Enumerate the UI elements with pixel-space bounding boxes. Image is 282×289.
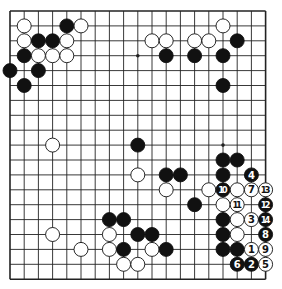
black-stone (216, 153, 230, 167)
white-stone (145, 34, 159, 48)
black-stone (3, 64, 17, 78)
white-stone: 5 (259, 257, 273, 271)
white-stone: 13 (259, 183, 273, 197)
black-stone (216, 79, 230, 93)
black-stone (173, 168, 187, 182)
go-board-diagram: 4107131112314819625 (0, 0, 282, 289)
move-number-label: 8 (262, 229, 269, 240)
white-stone (230, 183, 244, 197)
move-number-label: 10 (218, 185, 228, 195)
white-stone (230, 228, 244, 242)
white-stone (17, 34, 31, 48)
white-stone (216, 19, 230, 33)
move-number-label: 11 (232, 200, 242, 210)
move-number-label: 13 (261, 185, 271, 195)
white-stone (102, 228, 116, 242)
black-stone: 10 (216, 183, 230, 197)
black-stone (117, 242, 131, 256)
move-number-label: 7 (248, 184, 255, 195)
black-stone (188, 49, 202, 63)
white-stone: 3 (244, 213, 258, 227)
black-stone (230, 242, 244, 256)
black-stone (102, 213, 116, 227)
black-stone (17, 79, 31, 93)
black-stone (216, 168, 230, 182)
black-stone (117, 213, 131, 227)
black-stone (159, 49, 173, 63)
white-stone (117, 257, 131, 271)
black-stone (31, 64, 45, 78)
move-number-label: 2 (248, 259, 255, 270)
black-stone: 12 (259, 198, 273, 212)
black-stone (216, 228, 230, 242)
white-stone (74, 19, 88, 33)
move-number-label: 4 (248, 170, 255, 181)
black-stone (17, 49, 31, 63)
white-stone (145, 242, 159, 256)
black-stone (188, 198, 202, 212)
black-stone: 8 (259, 228, 273, 242)
white-stone (131, 168, 145, 182)
black-stone (216, 213, 230, 227)
white-stone (159, 183, 173, 197)
white-stone (159, 34, 173, 48)
black-stone: 14 (259, 213, 273, 227)
white-stone (74, 242, 88, 256)
white-stone (60, 49, 74, 63)
black-stone: 2 (244, 257, 258, 271)
move-number-label: 3 (248, 214, 255, 225)
move-number-label: 1 (248, 244, 255, 255)
black-stone (159, 168, 173, 182)
white-stone (60, 34, 74, 48)
black-stone (60, 19, 74, 33)
black-stone (216, 49, 230, 63)
white-stone: 11 (230, 198, 244, 212)
white-stone (102, 242, 116, 256)
black-stone (145, 228, 159, 242)
black-stone: 4 (244, 168, 258, 182)
move-number-label: 12 (261, 200, 271, 210)
black-stone (216, 242, 230, 256)
white-stone (230, 213, 244, 227)
move-number-label: 6 (234, 259, 241, 270)
go-board: 4107131112314819625 (0, 0, 282, 289)
move-number-label: 9 (262, 244, 269, 255)
black-stone (131, 228, 145, 242)
white-stone (46, 138, 60, 152)
white-stone (131, 257, 145, 271)
white-stone (216, 198, 230, 212)
black-stone: 6 (230, 257, 244, 271)
star-point (221, 143, 225, 147)
star-point (136, 54, 140, 58)
white-stone (202, 183, 216, 197)
white-stone: 7 (244, 183, 258, 197)
black-stone (159, 242, 173, 256)
white-stone: 9 (259, 242, 273, 256)
white-stone (188, 34, 202, 48)
black-stone (230, 34, 244, 48)
white-stone (17, 19, 31, 33)
black-stone (230, 153, 244, 167)
white-stone (202, 34, 216, 48)
move-number-label: 14 (261, 215, 271, 225)
black-stone (31, 34, 45, 48)
black-stone (46, 34, 60, 48)
white-stone: 1 (244, 242, 258, 256)
move-number-label: 5 (262, 259, 269, 270)
black-stone (131, 138, 145, 152)
white-stone (46, 228, 60, 242)
white-stone (31, 49, 45, 63)
white-stone (46, 49, 60, 63)
